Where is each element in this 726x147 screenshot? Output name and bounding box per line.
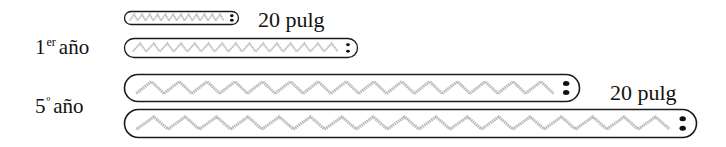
worm-year5-short	[125, 75, 580, 102]
worm-body-outline	[125, 39, 358, 58]
worm-year1-short	[125, 12, 239, 25]
worm-eye-bottom-icon	[346, 50, 350, 53]
worm-eye-bottom-icon	[230, 19, 234, 22]
worm-eye-top-icon	[346, 43, 350, 46]
worm-eye-top-icon	[230, 14, 234, 17]
worm-eye-bottom-icon	[679, 126, 685, 131]
worm-year1-long	[125, 39, 358, 58]
worm-eye-bottom-icon	[563, 90, 569, 95]
worm-year5-long	[125, 110, 697, 138]
worm-body-outline	[125, 75, 580, 102]
worm-diagram	[0, 0, 726, 147]
worm-eye-top-icon	[563, 81, 569, 86]
worm-eye-top-icon	[679, 116, 685, 121]
